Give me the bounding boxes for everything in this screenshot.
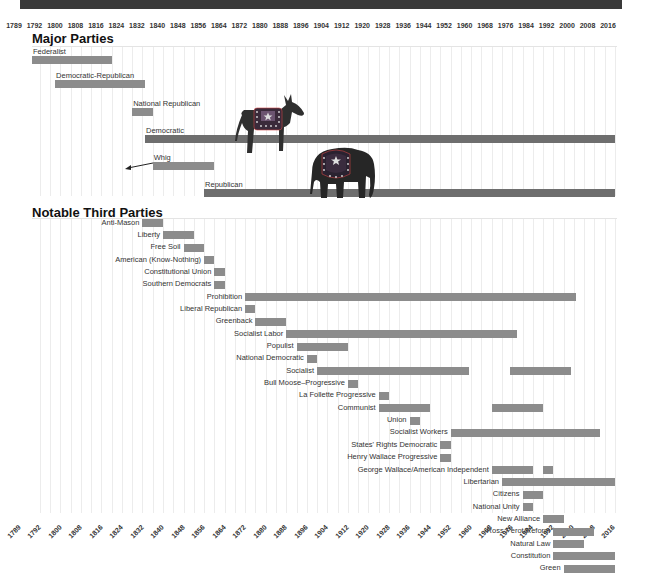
axis-tick-label: 1816 xyxy=(88,524,104,540)
party-bar xyxy=(502,478,615,486)
axis-tick-label: 1792 xyxy=(27,22,43,29)
major-parties-title: Major Parties xyxy=(32,31,114,46)
party-label: Socialist Workers xyxy=(390,427,448,436)
party-label: Populist xyxy=(267,341,294,350)
grid-line xyxy=(615,218,616,513)
axis-tick-label: 1976 xyxy=(498,22,514,29)
party-label: New Alliance xyxy=(497,514,540,523)
party-bar xyxy=(204,189,615,197)
grid-line xyxy=(225,218,226,513)
axis-tick-label: 1888 xyxy=(272,22,288,29)
axis-tick-label: 1888 xyxy=(272,524,288,540)
axis-tick-label: 1920 xyxy=(354,524,370,540)
grid-line xyxy=(184,46,185,196)
axis-tick-label: 1808 xyxy=(68,22,84,29)
grid-line xyxy=(594,46,595,196)
party-bar xyxy=(286,330,517,338)
grid-line xyxy=(142,46,143,196)
party-bar xyxy=(553,528,594,536)
grid-line xyxy=(122,46,123,196)
axis-tick-label: 1936 xyxy=(395,524,411,540)
grid-line xyxy=(564,218,565,513)
party-bar xyxy=(523,491,544,499)
axis-tick-label: 1824 xyxy=(109,22,125,29)
party-bar xyxy=(451,429,600,437)
grid-line xyxy=(553,218,554,513)
party-label: Communist xyxy=(338,403,376,412)
party-label: Socialist xyxy=(286,366,314,375)
party-label: Federalist xyxy=(33,47,66,56)
grid-line xyxy=(574,218,575,513)
grid-line xyxy=(533,218,534,513)
axis-tick-label: 1848 xyxy=(170,22,186,29)
grid-top-rule xyxy=(32,46,617,47)
header-bar xyxy=(20,0,622,9)
grid-line xyxy=(605,46,606,196)
grid-line xyxy=(327,218,328,513)
party-bar xyxy=(153,162,215,170)
axis-tick-label: 1880 xyxy=(252,524,268,540)
grid-line xyxy=(60,218,61,513)
axis-tick-label: 1896 xyxy=(293,524,309,540)
party-bar xyxy=(492,466,533,474)
axis-tick-label: 1952 xyxy=(436,22,452,29)
grid-line xyxy=(461,46,462,196)
axis-tick-label: 1864 xyxy=(211,22,227,29)
grid-line xyxy=(173,46,174,196)
axis-tick-label: 1936 xyxy=(395,22,411,29)
party-label: National Republican xyxy=(133,99,200,108)
grid-line xyxy=(605,218,606,513)
grid-line xyxy=(194,46,195,196)
axis-tick-label: 1928 xyxy=(375,524,391,540)
axis-tick-label: 1816 xyxy=(88,22,104,29)
axis-tick-label: 1856 xyxy=(190,524,206,540)
grid-line xyxy=(584,46,585,196)
party-bar xyxy=(523,503,533,511)
grid-line xyxy=(410,46,411,196)
party-bar xyxy=(410,417,420,425)
axis-tick-label: 1856 xyxy=(191,22,207,29)
grid-line xyxy=(502,46,503,196)
party-label: Free Soil xyxy=(151,242,181,251)
party-label: Democratic xyxy=(146,126,184,135)
axis-tick-label: 1984 xyxy=(518,22,534,29)
party-bar xyxy=(543,466,553,474)
party-bar xyxy=(163,231,194,239)
party-label: Constitution xyxy=(511,551,551,560)
party-label: Liberty xyxy=(137,230,160,239)
grid-line xyxy=(399,46,400,196)
grid-line xyxy=(564,46,565,196)
grid-line xyxy=(523,46,524,196)
party-bar xyxy=(379,392,389,400)
grid-line xyxy=(430,46,431,196)
party-bar xyxy=(142,219,163,227)
axis-tick-label: 1992 xyxy=(539,22,555,29)
grid-line xyxy=(574,46,575,196)
grid-line xyxy=(481,46,482,196)
party-label: Constitutional Union xyxy=(144,267,211,276)
donkey-icon xyxy=(234,93,306,161)
party-label: Citizens xyxy=(493,489,520,498)
axis-tick-label: 1840 xyxy=(149,524,165,540)
axis-tick-label: 1944 xyxy=(416,22,432,29)
axis-tick-label: 1800 xyxy=(47,22,63,29)
party-label: States' Rights Democratic xyxy=(351,440,437,449)
party-label: Henry Wallace Progressive xyxy=(347,452,437,461)
axis-tick-label: 1864 xyxy=(211,524,227,540)
elephant-icon xyxy=(308,146,380,202)
grid-line xyxy=(204,46,205,196)
party-bar xyxy=(214,268,224,276)
grid-line xyxy=(101,218,102,513)
party-bar xyxy=(348,380,358,388)
axis-tick-label: 1824 xyxy=(108,524,124,540)
axis-tick-label: 2000 xyxy=(559,22,575,29)
grid-line xyxy=(101,46,102,196)
party-bar xyxy=(132,108,153,116)
party-bar xyxy=(145,135,615,143)
party-label: National Unity xyxy=(473,502,520,511)
party-label: Whig xyxy=(154,153,171,162)
party-bar xyxy=(255,318,286,326)
party-bar xyxy=(317,367,469,375)
axis-tick-label: 1792 xyxy=(26,524,42,540)
party-label: Anti-Mason xyxy=(102,218,140,227)
